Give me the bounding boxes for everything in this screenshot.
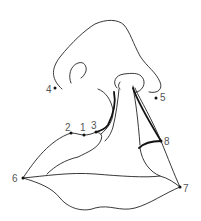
landmark-7-label: 7: [183, 183, 189, 194]
landmark-8-label: 8: [164, 136, 170, 147]
mouth-line: [23, 173, 180, 187]
landmark-2-label: 2: [65, 122, 71, 133]
upper-lip-top: [23, 132, 102, 178]
landmark-8-point: [160, 140, 163, 143]
nose-lips-diagram: 1 2 3 4 5 6 7 8: [0, 0, 201, 221]
left-nostril: [70, 63, 87, 83]
landmark-5-label: 5: [160, 92, 166, 103]
landmark-7-point: [179, 186, 182, 189]
nose-tip-inner: [119, 82, 121, 89]
landmark-4-label: 4: [46, 84, 52, 95]
landmark-1-point: [83, 134, 86, 137]
landmark-6-point: [22, 177, 25, 180]
landmark-4-point: [54, 87, 57, 90]
right-upper-lip: [140, 148, 160, 176]
nose-outline: [53, 20, 160, 92]
landmark-1-label: 1: [80, 122, 86, 133]
landmark-6-label: 6: [12, 173, 18, 184]
landmark-5-point: [155, 97, 158, 100]
landmark-8-connector: [139, 141, 161, 148]
lower-lip: [23, 178, 180, 210]
landmark-3-label: 3: [91, 120, 97, 131]
philtrum-left-inner: [96, 92, 115, 132]
